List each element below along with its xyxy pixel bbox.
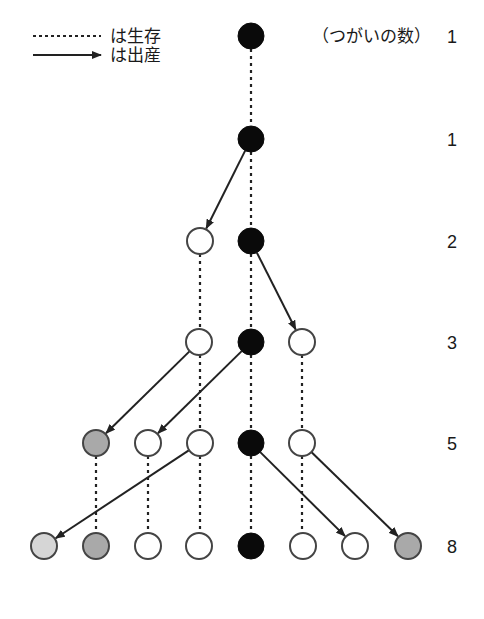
legend-survival-label: は生存	[110, 26, 161, 46]
pair-node-white	[135, 430, 161, 456]
pair-count-row-1: 1	[447, 27, 457, 47]
legend-birth: は出産	[33, 45, 161, 65]
pair-count-row-4: 3	[447, 333, 457, 353]
pair-count-header: （つがいの数）	[312, 26, 431, 46]
pair-count-row-5: 5	[447, 434, 457, 454]
pair-node-white	[342, 533, 368, 559]
pair-count-row-2: 1	[447, 130, 457, 150]
pair-nodes	[31, 23, 421, 559]
pair-node-black	[238, 23, 264, 49]
birth-arrow	[257, 253, 296, 330]
birth-links	[56, 151, 398, 539]
pair-node-light-gray	[31, 533, 57, 559]
pair-node-black	[238, 533, 264, 559]
pair-node-white	[289, 329, 315, 355]
pair-node-white	[187, 228, 213, 254]
survival-links	[96, 49, 302, 533]
pair-count-row-3: 2	[447, 232, 457, 252]
pair-node-medium-gray	[395, 533, 421, 559]
pair-node-white	[289, 430, 315, 456]
fibonacci-rabbit-diagram: は生存 は出産 （つがいの数） 112358	[0, 0, 484, 619]
legend-survival: は生存	[33, 26, 161, 46]
legend: は生存 は出産	[33, 26, 161, 65]
pair-node-white	[135, 533, 161, 559]
pair-node-white	[187, 430, 213, 456]
pair-node-white	[186, 533, 212, 559]
pair-node-white	[186, 329, 212, 355]
pair-node-black	[238, 329, 264, 355]
diagram-canvas: は生存 は出産 （つがいの数） 112358	[0, 0, 484, 619]
birth-arrow	[206, 151, 245, 229]
pair-node-black	[238, 228, 264, 254]
pair-counts: 112358	[447, 27, 457, 557]
birth-arrow	[311, 452, 398, 536]
birth-arrow	[106, 351, 190, 433]
pair-count-row-6: 8	[447, 537, 457, 557]
pair-node-medium-gray	[83, 430, 109, 456]
pair-node-black	[238, 126, 264, 152]
pair-node-white	[290, 533, 316, 559]
pair-node-black	[238, 430, 264, 456]
birth-arrow	[56, 450, 189, 538]
pair-node-medium-gray	[83, 533, 109, 559]
legend-birth-label: は出産	[110, 45, 161, 65]
